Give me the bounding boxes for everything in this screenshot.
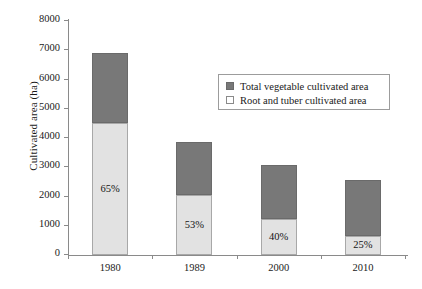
y-tick-label: 1000 — [39, 218, 60, 229]
x-tick-label: 2000 — [239, 262, 319, 273]
y-tick-label: 8000 — [39, 13, 60, 24]
x-tick-mark — [68, 255, 69, 259]
bar-percentage-label: 40% — [261, 231, 297, 242]
chart-legend: Total vegetable cultivated area Root and… — [218, 74, 390, 110]
y-tick-label: 6000 — [39, 72, 60, 83]
y-tick-label: 0 — [55, 247, 60, 258]
legend-swatch-icon-dark — [226, 82, 234, 90]
y-tick-mark — [64, 49, 68, 50]
legend-label-total-vegetable: Total vegetable cultivated area — [240, 81, 368, 92]
y-axis-title: Cultivated area (ha) — [27, 46, 39, 206]
y-tick-mark — [64, 137, 68, 138]
legend-item-root-tuber: Root and tuber cultivated area — [226, 93, 389, 107]
x-tick-mark — [152, 255, 153, 259]
y-tick-label: 2000 — [39, 189, 60, 200]
bar-group: 25% — [345, 21, 381, 255]
x-tick-label: 1980 — [70, 262, 150, 273]
x-axis-line — [68, 255, 408, 256]
y-tick-mark — [64, 108, 68, 109]
bar-group: 53% — [176, 21, 212, 255]
y-tick-label: 4000 — [39, 130, 60, 141]
y-tick-label: 5000 — [39, 101, 60, 112]
bar-percentage-label: 25% — [345, 239, 381, 250]
y-axis-line — [68, 19, 69, 257]
bar-percentage-label: 53% — [176, 219, 212, 230]
bar-segment-total-vegetable — [261, 165, 297, 219]
bar-group: 65% — [92, 21, 128, 255]
legend-swatch-icon-light — [226, 96, 234, 104]
x-tick-label: 1989 — [154, 262, 234, 273]
x-tick-mark — [405, 255, 406, 259]
stacked-bar-chart: Cultivated area (ha) 0100020003000400050… — [0, 0, 422, 289]
y-tick-label: 3000 — [39, 159, 60, 170]
legend-label-root-tuber: Root and tuber cultivated area — [240, 95, 367, 106]
y-tick-mark — [64, 20, 68, 21]
bar-segment-total-vegetable — [176, 142, 212, 195]
x-tick-mark — [321, 255, 322, 259]
x-tick-mark — [237, 255, 238, 259]
y-tick-mark — [64, 196, 68, 197]
y-tick-mark — [64, 166, 68, 167]
y-tick-mark — [64, 79, 68, 80]
bar-segment-total-vegetable — [345, 180, 381, 236]
bar-group: 40% — [261, 21, 297, 255]
x-tick-label: 2010 — [323, 262, 403, 273]
bar-percentage-label: 65% — [92, 183, 128, 194]
legend-item-total-vegetable: Total vegetable cultivated area — [226, 79, 389, 93]
y-tick-mark — [64, 225, 68, 226]
y-tick-label: 7000 — [39, 42, 60, 53]
bar-segment-total-vegetable — [92, 53, 128, 123]
